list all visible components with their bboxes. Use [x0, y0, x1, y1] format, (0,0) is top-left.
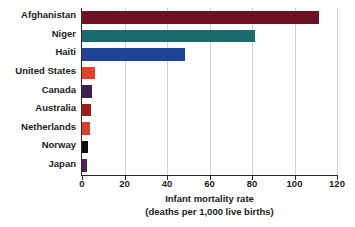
xtick-label-40: 40 [147, 178, 187, 189]
x-axis-title: Infant mortality rate (deaths per 1,000 … [82, 192, 337, 218]
x-axis-tick-labels: 0 20 40 60 80 100 120 [82, 178, 337, 190]
gridline-120 [337, 8, 338, 175]
bar-afghanistan [82, 11, 319, 24]
bar-row-haiti [82, 45, 337, 64]
y-label-united-states: United States [0, 66, 76, 76]
y-label-niger: Niger [0, 29, 76, 39]
infant-mortality-bar-chart: Afghanistan Niger Haiti United States Ca… [0, 0, 355, 227]
bar-rows [82, 8, 337, 175]
y-label-japan: Japan [0, 159, 76, 169]
bar-row-norway [82, 138, 337, 157]
x-axis-title-line-2: (deaths per 1,000 live births) [82, 205, 337, 218]
xtick-label-120: 120 [317, 178, 355, 189]
bar-row-netherlands [82, 119, 337, 138]
y-label-canada: Canada [0, 85, 76, 95]
y-label-norway: Norway [0, 140, 76, 150]
xtick-label-20: 20 [105, 178, 145, 189]
bar-united-states [82, 67, 95, 80]
y-axis-line [81, 8, 82, 175]
y-label-haiti: Haiti [0, 47, 76, 57]
bar-canada [82, 85, 92, 98]
bar-netherlands [82, 122, 90, 135]
plot-area [82, 8, 337, 175]
bar-row-united-states [82, 64, 337, 83]
bar-row-canada [82, 82, 337, 101]
bar-japan [82, 159, 87, 172]
bar-australia [82, 104, 91, 117]
bar-row-niger [82, 27, 337, 46]
xtick-label-60: 60 [190, 178, 230, 189]
xtick-label-0: 0 [62, 178, 102, 189]
bar-norway [82, 141, 88, 154]
xtick-label-80: 80 [232, 178, 272, 189]
bar-haiti [82, 48, 185, 61]
bar-row-afghanistan [82, 8, 337, 27]
xtick-label-100: 100 [275, 178, 315, 189]
y-axis-category-labels: Afghanistan Niger Haiti United States Ca… [0, 8, 76, 175]
x-axis-title-line-1: Infant mortality rate [82, 192, 337, 205]
bar-row-australia [82, 101, 337, 120]
bar-niger [82, 30, 255, 43]
bar-row-japan [82, 156, 337, 175]
y-label-afghanistan: Afghanistan [0, 10, 76, 20]
y-label-netherlands: Netherlands [0, 122, 76, 132]
y-label-australia: Australia [0, 103, 76, 113]
